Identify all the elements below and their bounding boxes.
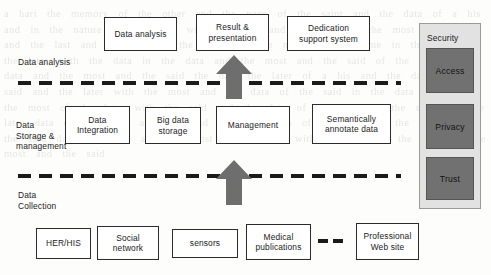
node-big-data-storage[interactable]: Big data storage (145, 107, 201, 144)
tier-label-data-collection: Data Collection (18, 190, 56, 211)
security-item-access[interactable]: Access (426, 48, 474, 93)
node-data-integration[interactable]: Data Integration (65, 106, 130, 144)
arrow-up-collection-to-storage-icon (216, 160, 252, 205)
node-social-network[interactable]: Social network (97, 226, 159, 260)
node-her-his[interactable]: HER/HIS (36, 228, 91, 259)
node-sensors[interactable]: sensors (172, 229, 238, 258)
security-item-privacy[interactable]: Privacy (426, 104, 474, 149)
tier-label-data-storage-management: Data Storage & management (16, 120, 66, 152)
node-data-analysis[interactable]: Data analysis (104, 17, 177, 51)
security-item-trust[interactable]: Trust (426, 157, 474, 200)
divider-storage-collection (18, 174, 401, 178)
tier-label-data-analysis: Data analysis (18, 57, 70, 68)
node-result-presentation[interactable]: Result & presentation (196, 14, 269, 51)
dash-segment-icon (318, 239, 328, 243)
dash-segment-icon (333, 239, 343, 243)
architecture-diagram: a hari the memory of the other and the p… (0, 0, 491, 275)
node-dedication-support-system[interactable]: Dedication support system (287, 16, 370, 51)
arrow-up-storage-to-analysis-icon (216, 55, 252, 99)
node-semantically-annotate-data[interactable]: Semantically annotate data (312, 104, 391, 144)
security-panel-title: Security (427, 33, 458, 43)
node-medical-publications[interactable]: Medical publications (246, 224, 311, 260)
divider-analysis-storage (18, 81, 401, 85)
node-professional-web-site[interactable]: Professional Web site (356, 223, 419, 260)
link-dashes-icon (318, 239, 343, 243)
node-management[interactable]: Management (216, 106, 290, 144)
